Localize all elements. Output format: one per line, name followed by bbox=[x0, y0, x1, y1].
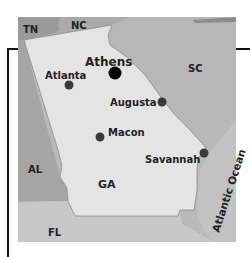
label-macon: Macon bbox=[108, 127, 145, 138]
city-dot-macon bbox=[96, 133, 105, 142]
city-dot-augusta bbox=[158, 98, 167, 107]
city-dot-savannah bbox=[200, 149, 209, 158]
label-savannah: Savannah bbox=[145, 154, 200, 165]
city-dot-atlanta bbox=[65, 81, 74, 90]
label-athens: Athens bbox=[85, 55, 132, 69]
label-sc: SC bbox=[188, 63, 203, 74]
label-ga: GA bbox=[98, 178, 116, 191]
label-fl: FL bbox=[48, 227, 62, 238]
label-al: AL bbox=[28, 164, 43, 175]
label-nc: NC bbox=[71, 20, 87, 31]
label-tn: TN bbox=[23, 24, 38, 35]
label-atlanta: Atlanta bbox=[45, 70, 86, 81]
label-augusta: Augusta bbox=[110, 97, 157, 108]
georgia-map: TN NC SC AL FL GA Atlantic Ocean Athens … bbox=[0, 0, 250, 257]
